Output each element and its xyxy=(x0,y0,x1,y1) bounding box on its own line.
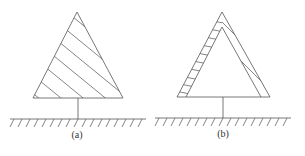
triangle-b-inner-left xyxy=(186,27,222,97)
triangle-b-inner-right xyxy=(222,27,261,97)
ground-hatch-a xyxy=(10,119,142,127)
figure-b-label: (b) xyxy=(217,128,229,139)
triangle-b-outer xyxy=(177,12,270,97)
ground-hatch-b xyxy=(155,118,287,126)
hatch-band-left xyxy=(170,18,228,96)
hatch-band-right xyxy=(205,0,285,95)
figure-a xyxy=(0,0,190,156)
figure-a-label: (a) xyxy=(71,129,82,140)
hatch-fill-a xyxy=(0,0,190,156)
triangle-a xyxy=(33,12,123,98)
figure-b xyxy=(155,0,291,126)
diagram-canvas xyxy=(0,0,305,156)
